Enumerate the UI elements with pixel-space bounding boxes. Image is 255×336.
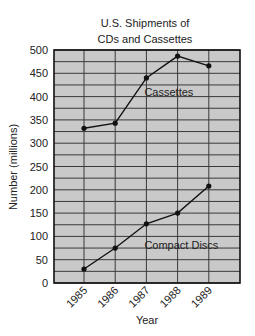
y-tick-label: 300	[30, 137, 48, 149]
y-tick-label: 350	[30, 114, 48, 126]
cassettes-label: Cassettes	[144, 86, 193, 98]
x-axis-label: Year	[136, 314, 159, 326]
x-tick-label: 1989	[188, 284, 214, 310]
y-tick-label: 0	[42, 277, 48, 289]
data-point	[175, 53, 180, 58]
x-tick-label: 1985	[64, 284, 90, 310]
y-tick-label: 400	[30, 91, 48, 103]
y-tick-label: 500	[30, 44, 48, 56]
y-tick-label: 50	[36, 254, 48, 266]
data-point	[175, 211, 180, 216]
data-point	[113, 245, 118, 250]
chart-title-line-2: CDs and Cassettes	[98, 33, 193, 45]
data-point	[81, 126, 86, 131]
data-point	[144, 221, 149, 226]
compact-discs-label: Compact Discs	[144, 239, 218, 251]
line-chart: U.S. Shipments of CDs and Cassettes 0501…	[0, 0, 255, 336]
chart-title-line-1: U.S. Shipments of	[101, 17, 191, 29]
x-axis-ticks: 19851986198719881989	[64, 284, 215, 310]
data-point	[206, 183, 211, 188]
data-point	[206, 63, 211, 68]
y-tick-label: 150	[30, 207, 48, 219]
x-tick-label: 1988	[157, 284, 183, 310]
x-tick-label: 1987	[126, 284, 152, 310]
data-point	[81, 266, 86, 271]
y-tick-label: 100	[30, 230, 48, 242]
y-tick-label: 200	[30, 184, 48, 196]
data-point	[113, 121, 118, 126]
y-axis-label: Number (millions)	[7, 124, 19, 210]
y-tick-label: 450	[30, 67, 48, 79]
y-tick-label: 250	[30, 161, 48, 173]
x-tick-label: 1986	[95, 284, 121, 310]
data-point	[144, 75, 149, 80]
y-axis-ticks: 050100150200250300350400450500	[30, 44, 48, 289]
